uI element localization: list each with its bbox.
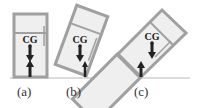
panel-a-fridge: CG xyxy=(14,14,47,77)
panel-c-label: (c) xyxy=(134,84,148,100)
panel-b-cg-text: CG xyxy=(73,34,88,45)
panel-a-cg-text: CG xyxy=(23,34,38,45)
panel-c-cg-text: CG xyxy=(145,31,160,42)
panel-a-label: (a) xyxy=(17,84,31,100)
panel-b-label: (b) xyxy=(66,84,81,100)
